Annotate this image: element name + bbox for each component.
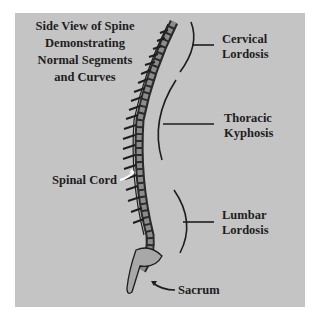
label-cervical-lordosis: Cervical Lordosis [222,32,269,62]
spinal-cord-arrow [120,169,134,180]
label-sacrum: Sacrum [178,283,220,298]
label-cervical: Cervical [222,32,269,47]
thoracic-bracket [158,80,176,160]
sacrum-arrow [151,281,175,290]
label-lumbar-lordosis: Lumbar Lordosis [222,208,269,238]
label-lumbar: Lumbar [222,208,269,223]
cervical-bracket [180,22,194,72]
label-lordosis-cervical: Lordosis [222,47,269,62]
title-line-4: and Curves [20,69,150,86]
title-line-1: Side View of Spine [20,18,150,35]
title-line-3: Normal Segments [20,52,150,69]
curve-brackets [158,22,214,253]
label-thoracic: Thoracic [224,111,273,126]
label-kyphosis: Kyphosis [224,126,273,141]
title-line-2: Demonstrating [20,35,150,52]
label-thoracic-kyphosis: Thoracic Kyphosis [224,111,273,141]
label-lordosis-lumbar: Lordosis [222,223,269,238]
label-spinal-cord: Spinal Cord [52,173,117,188]
diagram-title: Side View of Spine Demonstrating Normal … [20,18,150,86]
